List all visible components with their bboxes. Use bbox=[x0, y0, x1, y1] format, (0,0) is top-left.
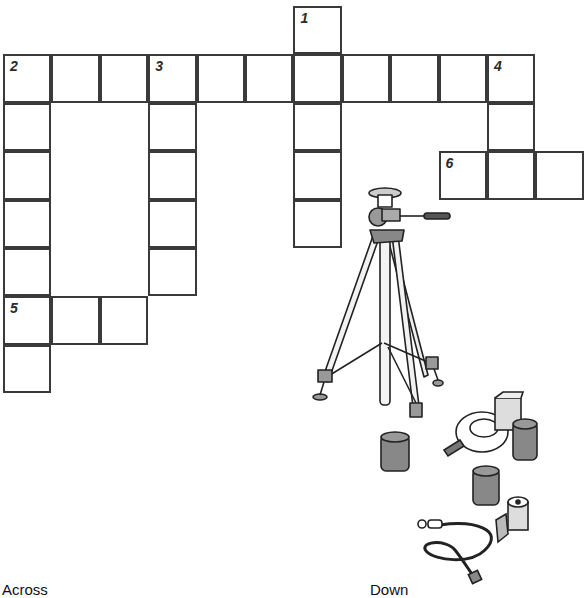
crossword-cell-r1-c5[interactable] bbox=[245, 54, 293, 102]
crossword-cell-r2-c10[interactable] bbox=[487, 103, 535, 151]
crossword-cell-r7-c0[interactable] bbox=[3, 345, 51, 393]
crossword-cell-r3-c0[interactable] bbox=[3, 151, 51, 199]
clue-number: 6 bbox=[446, 156, 454, 170]
crossword-cell-r1-c9[interactable] bbox=[439, 54, 487, 102]
crossword-cell-r6-c2[interactable] bbox=[100, 296, 148, 344]
crossword-cell-r3-c10[interactable] bbox=[487, 151, 535, 199]
crossword-cell-r1-c4[interactable] bbox=[197, 54, 245, 102]
crossword-cell-r6-c0[interactable]: 5 bbox=[3, 296, 51, 344]
crossword-cell-r6-c1[interactable] bbox=[51, 296, 99, 344]
clue-number: 5 bbox=[10, 301, 18, 315]
crossword-cell-r2-c3[interactable] bbox=[148, 103, 196, 151]
crossword-cell-r1-c1[interactable] bbox=[51, 54, 99, 102]
crossword-cell-r4-c0[interactable] bbox=[3, 200, 51, 248]
clue-number: 1 bbox=[300, 11, 308, 25]
crossword-cell-r3-c11[interactable] bbox=[535, 151, 583, 199]
crossword-cell-r2-c6[interactable] bbox=[293, 103, 341, 151]
tripod-icon bbox=[300, 175, 460, 425]
film-canister-icon-2 bbox=[510, 417, 540, 463]
crossword-cell-r5-c3[interactable] bbox=[148, 248, 196, 296]
film-canister-icon bbox=[378, 430, 412, 474]
down-heading: Down bbox=[370, 582, 408, 597]
shutter-release-cable-icon bbox=[415, 510, 515, 585]
crossword-cell-r1-c0[interactable]: 2 bbox=[3, 54, 51, 102]
crossword-cell-r1-c2[interactable] bbox=[100, 54, 148, 102]
crossword-cell-r4-c3[interactable] bbox=[148, 200, 196, 248]
across-heading: Across bbox=[2, 582, 48, 597]
crossword-cell-r1-c10[interactable]: 4 bbox=[487, 54, 535, 102]
crossword-cell-r1-c7[interactable] bbox=[342, 54, 390, 102]
crossword-cell-r5-c0[interactable] bbox=[3, 248, 51, 296]
crossword-cell-r3-c3[interactable] bbox=[148, 151, 196, 199]
clue-number: 3 bbox=[155, 59, 163, 73]
clue-number: 4 bbox=[494, 59, 502, 73]
crossword-cell-r1-c3[interactable]: 3 bbox=[148, 54, 196, 102]
crossword-cell-r1-c6[interactable] bbox=[293, 54, 341, 102]
clue-number: 2 bbox=[10, 59, 18, 73]
crossword-cell-r2-c0[interactable] bbox=[3, 103, 51, 151]
crossword-cell-r1-c8[interactable] bbox=[390, 54, 438, 102]
crossword-cell-r0-c6[interactable]: 1 bbox=[293, 6, 341, 54]
